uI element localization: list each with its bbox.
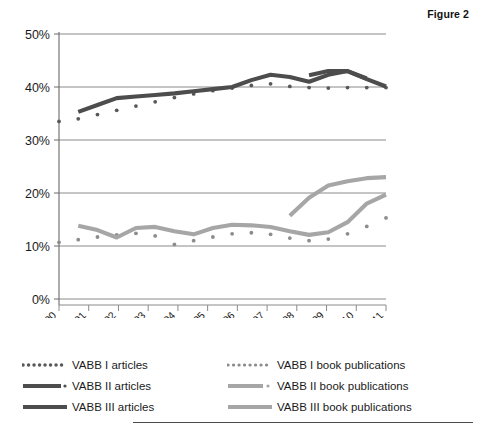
- legend-label: VABB III articles: [72, 400, 154, 414]
- x-tick-label: 2002: [93, 309, 118, 318]
- chart-plot-area: 0%10%20%30%40%50%20002001200220032004200…: [0, 18, 420, 318]
- x-tick-label: 2000: [33, 309, 58, 318]
- series-5-line: [290, 177, 386, 216]
- x-tick-label: 2006: [212, 309, 237, 318]
- chart-legend: VABB I articles VABB I book publications…: [22, 356, 452, 418]
- legend-label: VABB II articles: [72, 379, 151, 393]
- y-tick-label: 20%: [25, 187, 50, 201]
- legend-item-vabb-ii-articles: VABB II articles: [22, 377, 227, 395]
- legend-marker-solid-dark-2: [22, 400, 68, 414]
- legend-marker-solid-dark: [22, 379, 68, 393]
- legend-item-vabb-iii-book-publications: VABB III book publications: [227, 398, 457, 416]
- figure-container: Figure 2 0%10%20%30%40%50%20002001200220…: [0, 0, 483, 437]
- y-tick-label: 40%: [25, 81, 50, 95]
- figure-label: Figure 2: [427, 8, 469, 20]
- legend-item-vabb-i-articles: VABB I articles: [22, 356, 227, 374]
- legend-marker-dotted-light: [227, 358, 273, 372]
- x-tick-label: 2008: [271, 309, 296, 318]
- x-tick-label: 2005: [182, 309, 207, 318]
- line-chart-svg: 0%10%20%30%40%50%20002001200220032004200…: [0, 18, 420, 318]
- series-3-line: [78, 195, 386, 238]
- x-tick-label: 2011: [361, 309, 386, 318]
- x-tick-label: 2004: [152, 309, 177, 318]
- legend-marker-solid-light: [227, 379, 273, 393]
- x-tick-label: 2007: [242, 309, 267, 318]
- y-tick-label: 30%: [25, 134, 50, 148]
- legend-item-vabb-iii-articles: VABB III articles: [22, 398, 227, 416]
- legend-label: VABB I articles: [72, 358, 148, 372]
- y-tick-label: 10%: [25, 240, 50, 254]
- x-tick-label: 2003: [123, 309, 148, 318]
- legend-label: VABB I book publications: [277, 358, 405, 372]
- legend-marker-dotted-dark: [22, 358, 68, 372]
- x-tick-label: 2001: [63, 309, 88, 318]
- legend-item-vabb-i-book-publications: VABB I book publications: [227, 356, 457, 374]
- y-tick-label: 0%: [32, 293, 50, 307]
- x-tick-label: 2009: [301, 309, 326, 318]
- legend-item-vabb-ii-book-publications: VABB II book publications: [227, 377, 457, 395]
- series-2-line: [78, 71, 367, 112]
- series-1-dotted: [57, 216, 388, 246]
- legend-label: VABB II book publications: [277, 379, 408, 393]
- bottom-divider: [133, 422, 473, 423]
- x-tick-label: 2010: [331, 309, 356, 318]
- y-tick-label: 50%: [25, 28, 50, 42]
- legend-label: VABB III book publications: [277, 400, 412, 414]
- legend-marker-solid-light-2: [227, 400, 273, 414]
